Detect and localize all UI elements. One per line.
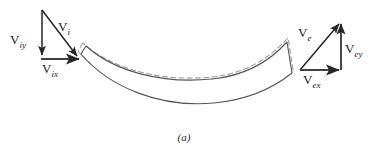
label-vex-sub: ex	[312, 80, 320, 90]
figure-container: Vi Viy Vix Ve Vey Vex (a)	[0, 0, 368, 155]
label-vey-base: V	[345, 41, 354, 56]
label-vi-base: V	[58, 19, 67, 34]
label-ve-base: V	[298, 25, 307, 40]
label-viy-sub: iy	[19, 40, 26, 50]
label-vix-sub: ix	[51, 69, 58, 79]
label-vey: Vey	[345, 42, 363, 59]
label-viy-base: V	[10, 32, 19, 47]
label-viy: Viy	[10, 33, 26, 50]
label-vi-sub: i	[67, 27, 70, 37]
label-vi: Vi	[58, 20, 70, 37]
label-vey-sub: ey	[354, 49, 362, 59]
label-vix-base: V	[42, 61, 51, 76]
ramp-solid-outline	[81, 42, 292, 104]
label-vex-base: V	[303, 72, 312, 87]
label-ve: Ve	[298, 26, 312, 43]
label-vix: Vix	[42, 62, 58, 79]
label-vex: Vex	[303, 73, 321, 90]
label-ve-sub: e	[307, 33, 311, 43]
figure-caption: (a)	[0, 131, 368, 143]
